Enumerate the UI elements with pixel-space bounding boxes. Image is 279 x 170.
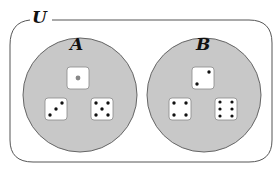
venn-diagram: U A B [0,0,279,170]
set-a: A [23,34,137,152]
universe-label: U [32,7,48,27]
die-five [91,98,113,120]
set-a-label: A [68,34,83,54]
die-three [45,98,67,120]
die-six [215,98,237,120]
die-one [67,67,89,89]
die-two [192,67,214,89]
set-b: B [147,34,261,152]
set-b-circle [147,38,261,152]
set-b-label: B [195,34,210,54]
die-four [169,98,191,120]
set-a-circle [23,38,137,152]
